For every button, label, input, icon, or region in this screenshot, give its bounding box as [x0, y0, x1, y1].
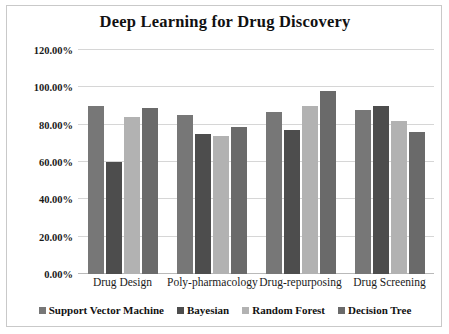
y-axis-tick: 120.00%: [13, 45, 73, 56]
bar: [88, 106, 104, 274]
bar: [124, 117, 140, 274]
y-axis-tick: 60.00%: [13, 157, 73, 168]
bar-group: [266, 50, 336, 274]
y-axis-tick: 40.00%: [13, 194, 73, 205]
bar: [177, 115, 193, 274]
y-axis-tick: 20.00%: [13, 231, 73, 242]
legend-swatch-icon: [242, 307, 249, 314]
bar: [320, 91, 336, 274]
bar: [302, 106, 318, 274]
legend-swatch-icon: [338, 307, 345, 314]
chart-frame: Deep Learning for Drug Discovery 0.00%20…: [6, 5, 442, 327]
bar: [195, 134, 211, 274]
bar: [391, 121, 407, 274]
x-axis-tick: Drug-repurposing: [256, 276, 345, 288]
legend-item[interactable]: Decision Tree: [338, 304, 411, 316]
bar: [142, 108, 158, 274]
y-axis-tick: 80.00%: [13, 119, 73, 130]
bar-series-container: [78, 50, 434, 274]
y-axis-tick: 100.00%: [13, 82, 73, 93]
chart-title: Deep Learning for Drug Discovery: [7, 12, 443, 32]
legend-swatch-icon: [177, 307, 184, 314]
bar: [284, 130, 300, 274]
y-axis-tick-labels: 0.00%20.00%40.00%60.00%80.00%100.00%120.…: [13, 50, 73, 274]
bar: [355, 110, 371, 274]
bar-group: [355, 50, 425, 274]
bar: [213, 136, 229, 274]
legend-label: Bayesian: [187, 304, 229, 316]
bar: [106, 162, 122, 274]
chart-legend: Support Vector MachineBayesianRandom For…: [7, 304, 443, 316]
legend-label: Decision Tree: [348, 304, 411, 316]
bar: [409, 132, 425, 274]
legend-item[interactable]: Bayesian: [177, 304, 229, 316]
bar: [373, 106, 389, 274]
bar-group: [177, 50, 247, 274]
legend-label: Random Forest: [252, 304, 325, 316]
x-axis-tick: Poly-pharmacology: [167, 276, 256, 288]
bar-group: [88, 50, 158, 274]
bar: [266, 112, 282, 274]
legend-item[interactable]: Random Forest: [242, 304, 325, 316]
bar: [231, 127, 247, 274]
legend-item[interactable]: Support Vector Machine: [39, 304, 164, 316]
x-axis-tick: Drug Screening: [345, 276, 434, 288]
y-axis-tick: 0.00%: [13, 269, 73, 280]
legend-label: Support Vector Machine: [49, 304, 164, 316]
legend-swatch-icon: [39, 307, 46, 314]
x-axis-tick: Drug Design: [78, 276, 167, 288]
plot-area: [78, 50, 434, 274]
x-axis-tick-labels: Drug DesignPoly-pharmacologyDrug-repurpo…: [78, 276, 434, 296]
